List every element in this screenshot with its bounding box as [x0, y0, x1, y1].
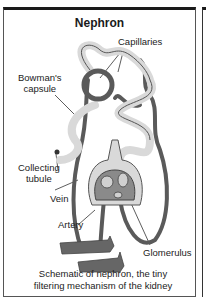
label-collecting-tubule-line2: tubule [18, 173, 60, 184]
label-capillaries: Capillaries [118, 36, 162, 47]
label-artery: Artery [58, 219, 83, 230]
label-collecting-tubule: Collecting tubule [18, 162, 60, 184]
label-glomerulus: Glomerulus [143, 247, 192, 258]
label-bowmans-capsule: Bowman's capsule [18, 72, 62, 94]
caption-line1: Schematic of nephron, the tiny [0, 268, 206, 280]
caption-line2: filtering mechanism of the kidney [0, 280, 206, 292]
label-vein: Vein [50, 193, 69, 204]
diagram-caption: Schematic of nephron, the tiny filtering… [0, 268, 206, 291]
label-bowmans-capsule-line1: Bowman's [18, 72, 62, 83]
label-bowmans-capsule-line2: capsule [18, 83, 62, 94]
label-collecting-tubule-line1: Collecting [18, 162, 60, 173]
